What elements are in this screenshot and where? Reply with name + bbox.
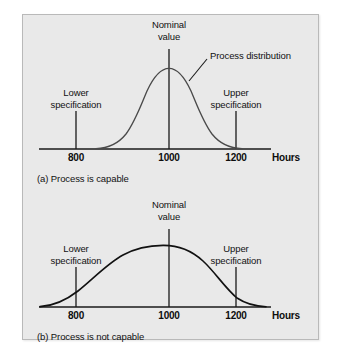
nominal-value-label: Nominal value — [135, 19, 203, 42]
chart-a-caption: (a) Process is capable — [37, 173, 129, 184]
chart-process-not-capable: Nominal value Lower specification Upper … — [23, 193, 320, 341]
lower-specification-label-line1: Lower — [31, 87, 121, 99]
nominal-value-label-line1: Nominal — [135, 19, 203, 31]
process-distribution-leader-line — [189, 59, 207, 81]
x-tick-label-1200: 1200 — [214, 152, 258, 163]
nominal-value-label-line1: Nominal — [135, 199, 203, 211]
nominal-value-label-line2: value — [135, 31, 203, 43]
upper-specification-label-line2: specification — [191, 255, 281, 267]
nominal-value-label: Nominal value — [135, 199, 203, 222]
upper-specification-label-line2: specification — [191, 99, 281, 111]
x-tick-label-1000: 1000 — [147, 152, 191, 163]
lower-specification-label-line1: Lower — [31, 243, 121, 255]
lower-specification-label: Lower specification — [31, 243, 121, 266]
x-axis-name: Hours — [272, 310, 300, 321]
chart-b-caption: (b) Process is not capable — [37, 331, 144, 342]
chart-process-capable: Nominal value Lower specification Upper … — [23, 15, 320, 201]
x-tick-label-800: 800 — [56, 310, 96, 321]
x-tick-label-1000: 1000 — [147, 310, 191, 321]
nominal-value-label-line2: value — [135, 211, 203, 223]
figure-panel: Nominal value Lower specification Upper … — [22, 14, 319, 340]
upper-specification-label-line1: Upper — [191, 87, 281, 99]
lower-specification-label: Lower specification — [31, 87, 121, 110]
upper-specification-label: Upper specification — [191, 87, 281, 110]
process-distribution-label: Process distribution — [210, 50, 291, 62]
x-tick-label-800: 800 — [56, 152, 96, 163]
lower-specification-label-line2: specification — [31, 99, 121, 111]
x-axis-name: Hours — [272, 152, 300, 163]
upper-specification-label-line1: Upper — [191, 243, 281, 255]
lower-specification-label-line2: specification — [31, 255, 121, 267]
upper-specification-label: Upper specification — [191, 243, 281, 266]
x-tick-label-1200: 1200 — [214, 310, 258, 321]
